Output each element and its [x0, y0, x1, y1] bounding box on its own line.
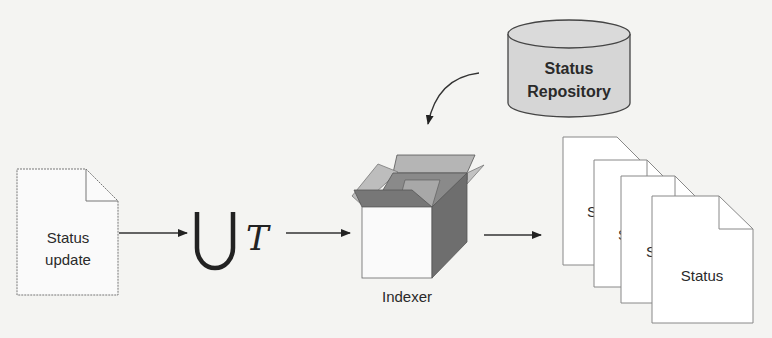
repository-label-line1: Status	[545, 60, 594, 77]
diagram-canvas: Status update T Indexer Status Repositor…	[0, 0, 772, 338]
indexer-box-icon: Indexer	[352, 155, 484, 305]
input-document-label-line1: Status	[47, 229, 90, 246]
union-icon	[197, 212, 233, 268]
status-repository-cylinder: Status Repository	[508, 20, 630, 117]
union-operator: T	[197, 212, 271, 268]
arrow-repository-to-indexer	[428, 73, 479, 124]
input-document-label-line2: update	[45, 251, 91, 268]
union-variable: T	[246, 218, 271, 258]
output-document-4: Status	[652, 196, 753, 323]
indexer-label: Indexer	[382, 288, 432, 305]
output-documents-stack: S S S Status	[563, 137, 753, 323]
input-document: Status update	[17, 169, 118, 295]
repository-label-line2: Repository	[527, 83, 611, 100]
output-document-4-label: Status	[681, 267, 724, 284]
